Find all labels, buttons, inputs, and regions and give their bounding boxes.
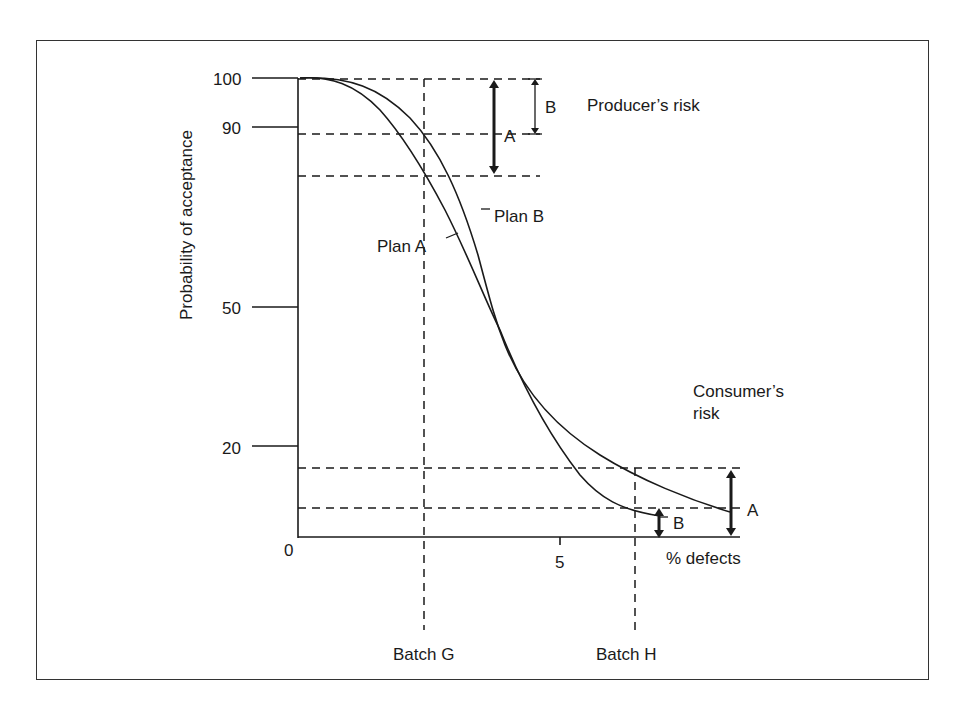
consumers-risk-label-line1: Consumer’s [693, 382, 784, 401]
x-axis [298, 537, 740, 545]
arrow-a-bottom-label: A [747, 501, 759, 520]
arrow-b-bottom-label: B [673, 514, 684, 533]
y-tick-label-90: 90 [222, 119, 241, 138]
plan-b-label: Plan B [494, 207, 544, 226]
batch-h-label: Batch H [596, 645, 656, 664]
origin-label: 0 [284, 541, 293, 560]
reference-lines [298, 79, 745, 630]
y-tick-label-100: 100 [213, 70, 241, 89]
consumers-risk-label-line2: risk [693, 404, 720, 423]
y-axis [252, 78, 298, 538]
y-tick-label-20: 20 [222, 439, 241, 458]
batch-g-label: Batch G [393, 645, 454, 664]
producers-risk-label: Producer’s risk [587, 96, 700, 115]
y-tick-label-50: 50 [222, 299, 241, 318]
x-axis-title: % defects [666, 549, 741, 568]
y-axis-title: Probability of acceptance [177, 130, 196, 320]
oc-curve-chart: Probability of acceptance 100 90 50 20 0… [0, 0, 963, 703]
arrow-a-top-label: A [504, 127, 516, 146]
plan-a-curve [300, 78, 660, 516]
plan-a-label: Plan A [377, 237, 427, 256]
x-tick-label-5: 5 [555, 553, 564, 572]
plan-a-leader [446, 233, 458, 238]
arrow-b-top-label: B [545, 98, 556, 117]
